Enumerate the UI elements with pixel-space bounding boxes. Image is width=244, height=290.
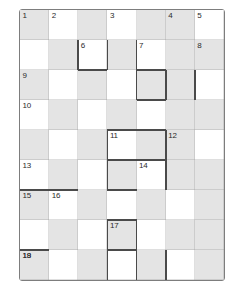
grid-cell-r7-c2[interactable] xyxy=(49,190,78,220)
grid-cell-r7-c6[interactable] xyxy=(166,190,195,220)
word-boundary-edge-21 xyxy=(49,189,78,191)
grid-cell-r8-c2[interactable] xyxy=(49,220,78,250)
word-boundary-edge-20 xyxy=(20,189,49,191)
grid-cell-r4-c7[interactable] xyxy=(195,100,224,130)
grid-cell-r9-c6[interactable] xyxy=(166,250,195,280)
word-boundary-edge-8 xyxy=(137,99,166,101)
grid-cell-r3-c1[interactable] xyxy=(20,70,49,100)
grid-cell-r4-c3[interactable] xyxy=(78,100,107,130)
grid-cell-r2-c6[interactable] xyxy=(166,40,195,70)
grid-cell-r6-c3[interactable] xyxy=(78,160,107,190)
word-boundary-edge-15 xyxy=(137,159,166,161)
grid-cell-r4-c1[interactable] xyxy=(20,100,49,130)
grid-cell-r5-c6[interactable] xyxy=(166,130,195,160)
cell-gridline-vertical xyxy=(223,130,224,160)
grid-cell-r8-c4[interactable] xyxy=(107,220,136,250)
cell-gridline-horizontal xyxy=(195,279,224,280)
grid-cell-r2-c2[interactable] xyxy=(49,40,78,70)
grid-cell-r6-c5[interactable] xyxy=(137,160,166,190)
grid-cell-r3-c2[interactable] xyxy=(49,70,78,100)
grid-cell-r2-c5[interactable] xyxy=(137,40,166,70)
grid-cell-r2-c1[interactable] xyxy=(20,40,49,70)
word-boundary-edge-13 xyxy=(137,129,166,131)
grid-cell-r3-c3[interactable] xyxy=(78,70,107,100)
word-boundary-edge-29 xyxy=(136,250,138,280)
word-boundary-edge-31 xyxy=(20,249,49,251)
grid-cell-r5-c3[interactable] xyxy=(78,130,107,160)
cell-gridline-horizontal xyxy=(20,279,49,280)
word-boundary-edge-1 xyxy=(77,40,79,70)
grid-cell-r8-c5[interactable] xyxy=(137,220,166,250)
grid-cell-r6-c1[interactable] xyxy=(20,160,49,190)
grid-cell-r5-c4[interactable] xyxy=(107,130,136,160)
word-boundary-edge-9 xyxy=(194,70,196,100)
word-boundary-edge-3 xyxy=(78,69,107,71)
word-boundary-edge-7 xyxy=(165,70,167,100)
grid-cell-r6-c2[interactable] xyxy=(49,160,78,190)
grid-cell-r2-c7[interactable] xyxy=(195,40,224,70)
grid-cell-r1-c5[interactable] xyxy=(137,10,166,40)
grid-cell-r4-c4[interactable] xyxy=(107,100,136,130)
cell-gridline-horizontal xyxy=(49,279,78,280)
grid-cell-r1-c6[interactable] xyxy=(166,10,195,40)
word-boundary-edge-6 xyxy=(136,70,138,100)
word-boundary-edge-11 xyxy=(107,130,109,160)
grid-cell-r7-c4[interactable] xyxy=(107,190,136,220)
cell-gridline-vertical xyxy=(223,220,224,250)
grid-cell-r1-c1[interactable] xyxy=(20,10,49,40)
cell-gridline-horizontal xyxy=(137,279,166,280)
word-boundary-edge-4 xyxy=(136,40,138,70)
grid-cell-r5-c2[interactable] xyxy=(49,130,78,160)
grid-cell-r1-c2[interactable] xyxy=(49,10,78,40)
cell-gridline-horizontal xyxy=(166,279,195,280)
word-boundary-edge-16 xyxy=(165,130,167,160)
cell-gridline-vertical xyxy=(223,250,224,280)
cell-gridline-horizontal xyxy=(107,279,136,280)
grid-cell-r6-c6[interactable] xyxy=(166,160,195,190)
grid-cell-r5-c7[interactable] xyxy=(195,130,224,160)
grid-cell-r9-c7[interactable] xyxy=(195,250,224,280)
grid-cell-r3-c4[interactable] xyxy=(107,70,136,100)
cell-gridline-horizontal xyxy=(78,279,107,280)
grid-cell-r9-c4[interactable] xyxy=(107,250,136,280)
word-boundary-edge-23 xyxy=(107,219,136,221)
grid-cell-r8-c3[interactable] xyxy=(78,220,107,250)
grid-cell-r8-c1[interactable] xyxy=(20,220,49,250)
grid-cell-r2-c3[interactable] xyxy=(78,40,107,70)
word-boundary-edge-12 xyxy=(107,129,136,131)
word-boundary-edge-17 xyxy=(107,160,109,190)
grid-cell-r9-c1[interactable] xyxy=(20,250,49,280)
grid-cell-r3-c7[interactable] xyxy=(195,70,224,100)
grid-cell-r4-c5[interactable] xyxy=(137,100,166,130)
word-boundary-edge-24 xyxy=(107,249,136,251)
grid-cell-r9-c3[interactable] xyxy=(78,250,107,280)
grid-cell-r7-c1[interactable] xyxy=(20,190,49,220)
crossword-grid[interactable]: 12345678910111213141516171819 xyxy=(20,10,224,280)
grid-cell-r8-c6[interactable] xyxy=(166,220,195,250)
word-boundary-edge-18 xyxy=(107,189,136,191)
grid-cell-r3-c6[interactable] xyxy=(166,70,195,100)
grid-cell-r1-c3[interactable] xyxy=(78,10,107,40)
grid-cell-r3-c5[interactable] xyxy=(137,70,166,100)
grid-cell-r4-c6[interactable] xyxy=(166,100,195,130)
grid-cell-r6-c4[interactable] xyxy=(107,160,136,190)
word-boundary-edge-30 xyxy=(165,250,167,280)
word-boundary-edge-26 xyxy=(107,250,109,280)
cell-gridline-vertical xyxy=(223,100,224,130)
grid-cell-r9-c2[interactable] xyxy=(49,250,78,280)
grid-cell-r8-c7[interactable] xyxy=(195,220,224,250)
word-boundary-edge-14 xyxy=(107,159,136,161)
grid-cell-r6-c7[interactable] xyxy=(195,160,224,190)
grid-cell-r4-c2[interactable] xyxy=(49,100,78,130)
grid-cell-r5-c1[interactable] xyxy=(20,130,49,160)
grid-cell-r7-c3[interactable] xyxy=(78,190,107,220)
grid-cell-r9-c5[interactable] xyxy=(137,250,166,280)
grid-cell-r2-c4[interactable] xyxy=(107,40,136,70)
grid-cell-r7-c5[interactable] xyxy=(137,190,166,220)
grid-cell-r1-c4[interactable] xyxy=(107,10,136,40)
cell-gridline-vertical xyxy=(223,40,224,70)
word-boundary-edge-25 xyxy=(136,220,138,250)
grid-cell-r1-c7[interactable] xyxy=(195,10,224,40)
grid-cell-r7-c7[interactable] xyxy=(195,190,224,220)
grid-cell-r5-c5[interactable] xyxy=(137,130,166,160)
